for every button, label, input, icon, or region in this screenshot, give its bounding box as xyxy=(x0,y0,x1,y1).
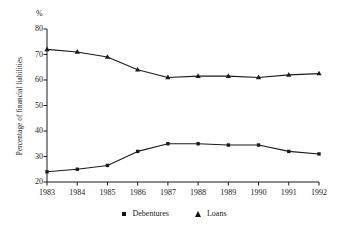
data-point-marker-square xyxy=(287,150,290,153)
legend-item-debentures[interactable]: Debentures xyxy=(121,209,169,218)
y-axis-tick-label: 60 xyxy=(29,76,43,84)
data-point-marker-square xyxy=(106,164,109,167)
x-axis-tick-label: 1987 xyxy=(160,188,176,197)
data-point-marker-square xyxy=(257,143,260,146)
y-axis-tick-label: 30 xyxy=(29,153,43,161)
x-axis-tick-label: 1984 xyxy=(69,188,85,197)
data-point-marker-square xyxy=(227,143,230,146)
x-axis-tick-label: 1989 xyxy=(220,188,236,197)
y-axis-tick-label: 50 xyxy=(29,102,43,110)
y-axis-tick-label: 70 xyxy=(29,51,43,59)
data-point-marker-triangle xyxy=(316,71,321,76)
legend: DebenturesLoans xyxy=(0,209,347,218)
x-axis-tick-label: 1991 xyxy=(281,188,297,197)
y-axis-tick-label: 20 xyxy=(29,178,43,186)
data-point-marker-square xyxy=(76,168,79,171)
plot-svg xyxy=(47,29,319,182)
legend-item-loans[interactable]: Loans xyxy=(195,209,227,218)
data-point-marker-square xyxy=(317,152,320,155)
x-axis-tick-label: 1985 xyxy=(99,188,115,197)
data-point-marker-triangle xyxy=(44,47,49,52)
square-marker-icon xyxy=(121,210,128,217)
series-line-debentures xyxy=(47,144,319,172)
series-line-loans xyxy=(47,49,319,77)
y-axis-title: Percentage of financial liabilities xyxy=(14,26,26,186)
data-point-marker-square xyxy=(166,142,169,145)
y-axis-title-text: Percentage of financial liabilities xyxy=(16,57,24,155)
x-axis-tick-label: 1990 xyxy=(251,188,267,197)
y-axis-tick-label: 80 xyxy=(29,25,43,33)
x-axis-tick-labels: 1983198419851986198719881989199019911992 xyxy=(0,188,347,200)
legend-item-label: Debentures xyxy=(133,209,169,218)
x-axis-tick-label: 1988 xyxy=(190,188,206,197)
x-axis-tick-label: 1992 xyxy=(311,188,327,197)
x-axis-tick-label: 1986 xyxy=(130,188,146,197)
x-axis-tick-label: 1983 xyxy=(39,188,55,197)
y-axis-tick-label: 40 xyxy=(29,127,43,135)
legend-item-label: Loans xyxy=(207,209,227,218)
triangle-marker-icon xyxy=(195,210,202,217)
plot-area xyxy=(47,29,319,182)
data-point-marker-square xyxy=(45,170,48,173)
line-chart: % Percentage of financial liabilities 20… xyxy=(0,0,347,235)
data-point-marker-square xyxy=(196,142,199,145)
data-point-marker-square xyxy=(136,150,139,153)
